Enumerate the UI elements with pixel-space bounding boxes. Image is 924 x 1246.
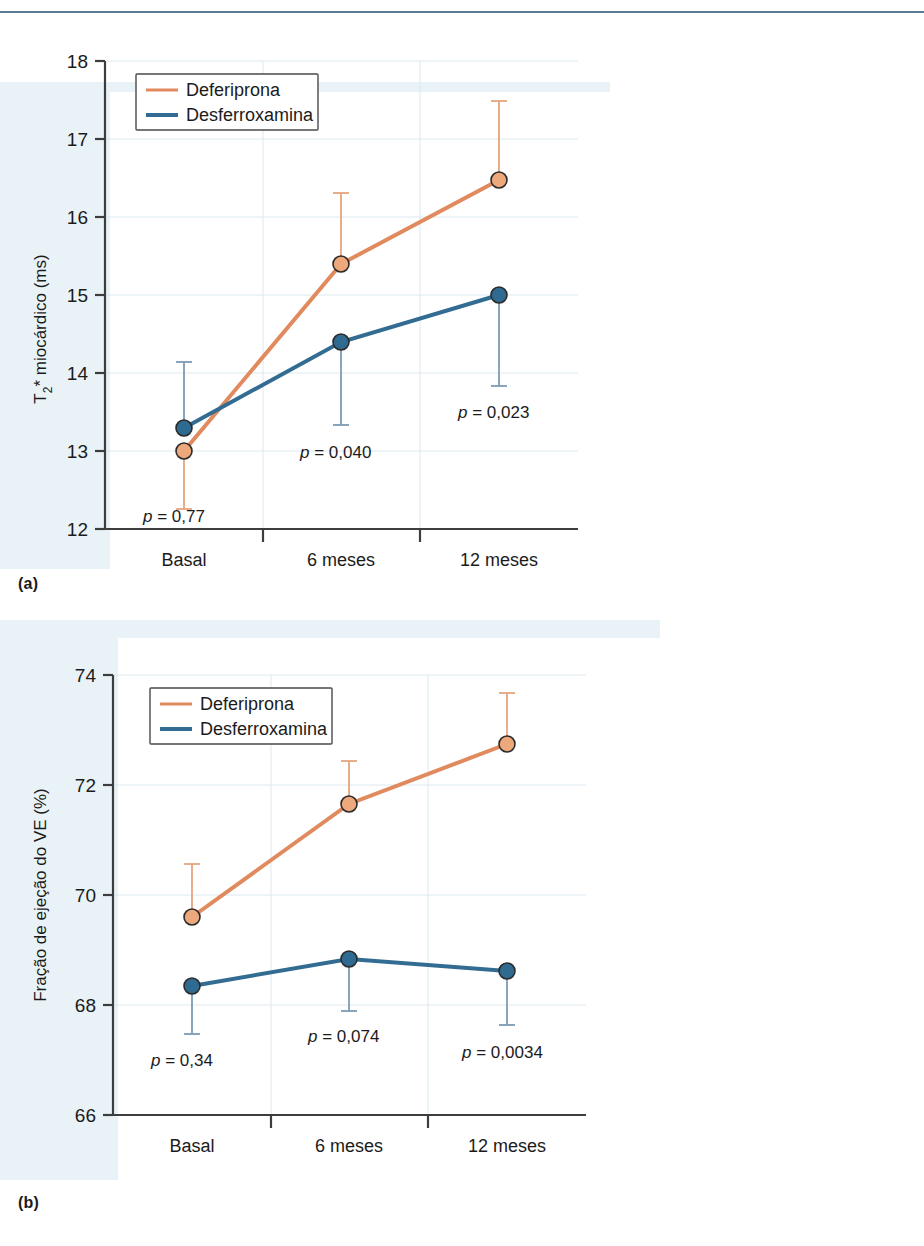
ytick-label: 72 [75, 775, 96, 796]
chart-b-yaxis-title: Fração de ejeção do VE (%) [31, 788, 50, 1002]
category-label-12-meses: 12 meses [460, 550, 538, 569]
category-label-6-meses: 6 meses [315, 1136, 383, 1156]
pvalue-annotation-basal: p = 0,34 [150, 1051, 213, 1070]
ytick-label: 16 [67, 207, 88, 228]
yaxis-title-base: T [31, 393, 50, 403]
legend-label-desferroxamina: Desferroxamina [200, 719, 328, 739]
category-label-12-meses: 12 meses [468, 1136, 546, 1156]
chart-b-ytick-labels: 74 72 70 68 66 [75, 665, 97, 1126]
chart-b-errorbars-desferroxamina [184, 959, 515, 1034]
pvalue-annotation-basal: p = 0,77 [142, 507, 205, 526]
category-label-basal: Basal [161, 550, 206, 569]
chart-b-svg: 74 72 70 68 66 Fração de ejeção do VE (%… [0, 620, 924, 1180]
page-top-rule [0, 11, 924, 13]
figure-page: 18 17 16 15 14 13 12 T2* miocárdico (ms)… [0, 0, 924, 1246]
pvalue-annotation-6-meses: p = 0,040 [299, 443, 371, 462]
ytick-label: 66 [75, 1105, 96, 1126]
yaxis-title-rest: miocárdico (ms) [31, 254, 50, 380]
chart-panel-a: 18 17 16 15 14 13 12 T2* miocárdico (ms)… [0, 24, 924, 569]
legend-label-deferiprona: Deferiprona [186, 80, 281, 100]
legend-label-desferroxamina: Desferroxamina [186, 105, 314, 125]
panel-a-label: (a) [18, 575, 38, 593]
ytick-label: 12 [67, 519, 88, 540]
svg-text:T2* miocárdico (ms): T2* miocárdico (ms) [31, 254, 55, 403]
ytick-label: 15 [67, 285, 88, 306]
chart-a-svg: 18 17 16 15 14 13 12 T2* miocárdico (ms)… [0, 24, 924, 569]
pvalue-annotation-6-meses: p = 0,074 [307, 1027, 379, 1046]
pvalue-annotation-12-meses: p = 0,0034 [461, 1043, 543, 1062]
chart-a-legend: Deferiprona Desferroxamina [136, 74, 318, 130]
ytick-label: 13 [67, 441, 88, 462]
ytick-label: 70 [75, 885, 96, 906]
panel-b-label: (b) [18, 1194, 39, 1212]
chart-a-axes [95, 61, 578, 542]
legend-label-deferiprona: Deferiprona [200, 694, 295, 714]
ytick-label: 14 [67, 363, 89, 384]
chart-a-ytick-labels: 18 17 16 15 14 13 12 [67, 51, 89, 540]
category-label-6-meses: 6 meses [307, 550, 375, 569]
ytick-label: 68 [75, 995, 96, 1016]
ytick-label: 17 [67, 129, 88, 150]
pvalue-annotation-12-meses: p = 0,023 [457, 403, 529, 422]
ytick-label: 18 [67, 51, 88, 72]
ytick-label: 74 [75, 665, 97, 686]
chart-panel-b: 74 72 70 68 66 Fração de ejeção do VE (%… [0, 620, 924, 1180]
category-label-basal: Basal [169, 1136, 214, 1156]
chart-b-legend: Deferiprona Desferroxamina [150, 688, 332, 744]
chart-b-category-labels: Basal 6 meses 12 meses [169, 1136, 546, 1156]
chart-a-category-labels: Basal 6 meses 12 meses [161, 550, 538, 569]
chart-a-yaxis-title: T2* miocárdico (ms) [31, 254, 55, 403]
chart-b-annotations: p = 0,34 p = 0,074 p = 0,0034 [150, 1027, 543, 1070]
